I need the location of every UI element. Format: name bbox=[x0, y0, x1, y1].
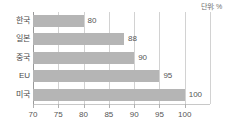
bar-EU bbox=[33, 70, 159, 82]
bar-row: 80 bbox=[33, 12, 210, 30]
bar-row: 100 bbox=[33, 86, 210, 104]
category-label-일본: 일본 bbox=[0, 33, 30, 45]
x-tick-label-80: 80 bbox=[79, 110, 88, 119]
bar-미국 bbox=[33, 89, 185, 101]
x-tick-label-85: 85 bbox=[104, 110, 113, 119]
tick-mark-75 bbox=[58, 104, 59, 108]
x-tick-label-100: 100 bbox=[178, 110, 191, 119]
bar-중국 bbox=[33, 52, 134, 64]
tick-mark-85 bbox=[109, 104, 110, 108]
category-label-미국: 미국 bbox=[0, 89, 30, 101]
x-tick-label-75: 75 bbox=[54, 110, 63, 119]
gridline-105 bbox=[210, 12, 211, 104]
plot-area: 80889095100 bbox=[33, 12, 210, 104]
tick-mark-95 bbox=[159, 104, 160, 108]
category-label-EU: EU bbox=[0, 70, 30, 82]
bar-value-label: 90 bbox=[134, 52, 147, 64]
bar-row: 95 bbox=[33, 67, 210, 85]
x-tick-label-95: 95 bbox=[155, 110, 164, 119]
x-tick-label-90: 90 bbox=[130, 110, 139, 119]
tick-mark-70 bbox=[33, 104, 34, 108]
bar-row: 88 bbox=[33, 30, 210, 48]
unit-note: 단위: % bbox=[201, 1, 222, 11]
bar-row: 90 bbox=[33, 49, 210, 67]
tick-mark-90 bbox=[134, 104, 135, 108]
bar-한국 bbox=[33, 15, 84, 27]
category-label-한국: 한국 bbox=[0, 15, 30, 27]
tick-mark-80 bbox=[84, 104, 85, 108]
bar-value-label: 95 bbox=[159, 70, 172, 82]
x-tick-label-70: 70 bbox=[29, 110, 38, 119]
tick-mark-100 bbox=[185, 104, 186, 108]
bar-value-label: 88 bbox=[124, 33, 137, 45]
bar-chart: 단위: % 80889095100 한국일본중국EU미국 70758085909… bbox=[0, 0, 226, 131]
category-label-중국: 중국 bbox=[0, 52, 30, 64]
axis-baseline bbox=[33, 104, 210, 105]
bar-value-label: 100 bbox=[185, 89, 202, 101]
bar-value-label: 80 bbox=[84, 15, 97, 27]
bar-일본 bbox=[33, 33, 124, 45]
